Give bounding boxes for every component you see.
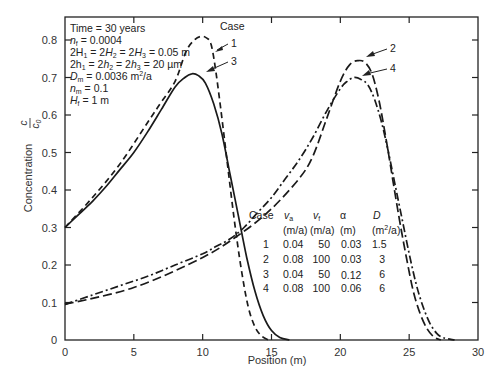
x-tick-label: 10: [197, 346, 209, 358]
param-Hf: Hf = 1 m: [70, 94, 109, 107]
case-parameter-table: Case va vf α D (m/a) (m/a) (m) (m2/a) 1 …: [249, 209, 400, 294]
case-legend-title: Case: [220, 20, 245, 32]
x-tick-label: 0: [62, 346, 68, 358]
table-row: 3 0.04 50 0.12 6: [263, 268, 385, 281]
y-tick-label: 0.4: [42, 184, 57, 196]
table-unit-va: (m/a): [283, 224, 308, 236]
svg-text:3: 3: [231, 55, 237, 67]
svg-text:1.5: 1.5: [372, 238, 387, 250]
case-3-pointer: 3: [206, 55, 237, 72]
svg-text:0.04: 0.04: [283, 268, 304, 280]
frac-den: c0: [30, 119, 42, 128]
table-header-case: Case: [249, 209, 274, 221]
svg-text:100: 100: [312, 253, 330, 265]
svg-text:3: 3: [379, 253, 385, 265]
x-axis-title: Position (m): [248, 354, 307, 366]
parameters-box: Time = 30 years nf = 0.0004 2H1 = 2H2 = …: [70, 22, 190, 107]
svg-text:0.04: 0.04: [283, 238, 304, 250]
y-tick-label: 0.5: [42, 147, 57, 159]
svg-text:0.08: 0.08: [283, 253, 304, 265]
svg-text:100: 100: [312, 282, 330, 294]
table-unit-D: (m2/a): [372, 224, 400, 236]
table-header-va: va: [284, 209, 293, 222]
svg-text:0.03: 0.03: [341, 253, 362, 265]
table-row: 4 0.08 100 0.06 6: [263, 282, 385, 294]
chart: 051015202530 00.10.20.30.40.50.60.70.8 P…: [0, 0, 499, 388]
table-unit-alpha: (m): [340, 224, 356, 236]
x-tick-label: 25: [403, 346, 415, 358]
svg-text:4: 4: [390, 62, 396, 74]
y-axis-fraction: c c0: [18, 118, 42, 128]
svg-text:6: 6: [379, 268, 385, 280]
y-tick-label: 0.1: [42, 297, 57, 309]
y-tick-label: 0.8: [42, 34, 57, 46]
svg-text:4: 4: [263, 282, 269, 294]
y-axis-title: Concentration: [22, 144, 34, 213]
x-tick-label: 5: [131, 346, 137, 358]
svg-text:0.12: 0.12: [341, 269, 362, 281]
table-row: 1 0.04 50 0.03 1.5: [263, 238, 387, 250]
svg-text:1: 1: [263, 238, 269, 250]
svg-text:50: 50: [318, 268, 330, 280]
svg-text:6: 6: [379, 282, 385, 294]
frac-num: c: [18, 121, 29, 126]
svg-text:0.08: 0.08: [283, 282, 304, 294]
svg-text:3: 3: [263, 268, 269, 280]
y-tick-label: 0.3: [42, 222, 57, 234]
svg-text:2: 2: [263, 253, 269, 265]
table-unit-vf: (m/a): [310, 224, 335, 236]
x-tick-label: 20: [334, 346, 346, 358]
y-tick-label: 0.7: [42, 72, 57, 84]
svg-text:0.06: 0.06: [341, 282, 362, 294]
series-3-line: [65, 74, 289, 340]
series-2-line: [65, 60, 441, 340]
svg-text:1: 1: [231, 37, 237, 49]
y-axis-title-text: Concentration: [22, 144, 34, 213]
case-1-pointer: 1: [215, 37, 237, 52]
table-header-alpha: α: [340, 209, 346, 221]
svg-text:0.03: 0.03: [341, 238, 362, 250]
table-header-D: D: [373, 209, 381, 221]
y-tick-label: 0.6: [42, 109, 57, 121]
y-axis-tick-labels: 00.10.20.30.40.50.60.70.8: [42, 34, 57, 346]
y-tick-label: 0.2: [42, 259, 57, 271]
y-tick-label: 0: [51, 334, 57, 346]
case-2-pointer: 2: [366, 42, 396, 57]
x-tick-label: 30: [472, 346, 484, 358]
svg-text:50: 50: [318, 238, 330, 250]
svg-text:2: 2: [390, 42, 396, 54]
table-header-vf: vf: [313, 209, 320, 222]
param-time: Time = 30 years: [70, 22, 145, 34]
table-row: 2 0.08 100 0.03 3: [263, 253, 385, 265]
